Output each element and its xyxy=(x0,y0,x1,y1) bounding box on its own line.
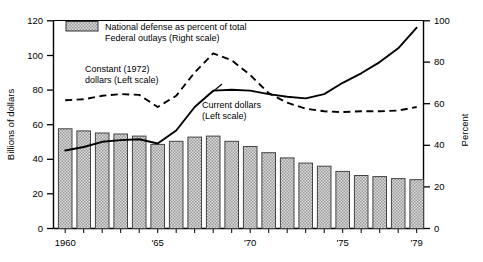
table-row xyxy=(206,136,220,228)
right-tick-80: 80 xyxy=(434,56,445,67)
x-tick-75: '75 xyxy=(337,237,349,248)
right-axis-title: Percent xyxy=(459,113,470,146)
chart-figure: 0 20 40 60 80 100 120 Billions of dollar… xyxy=(0,0,483,262)
table-row xyxy=(58,129,72,229)
x-tick-70: '70 xyxy=(244,237,256,248)
left-axis-title: Billions of dollars xyxy=(5,89,16,161)
table-row xyxy=(169,141,183,228)
left-tick-40: 40 xyxy=(32,153,43,164)
left-tick-100: 100 xyxy=(27,50,43,61)
hatched-bar-swatch xyxy=(66,22,98,32)
table-row xyxy=(391,179,405,229)
right-tick-100: 100 xyxy=(434,15,450,26)
annotation-constant-dollars: Constant (1972) dollars (Left scale) xyxy=(85,64,159,85)
table-row xyxy=(410,180,424,229)
left-tick-0: 0 xyxy=(38,223,43,234)
annotation-constant-line2: dollars (Left scale) xyxy=(85,75,159,85)
table-row xyxy=(243,147,257,229)
right-tick-20: 20 xyxy=(434,181,445,192)
table-row xyxy=(262,153,276,229)
right-tick-40: 40 xyxy=(434,139,445,150)
left-tick-60: 60 xyxy=(32,119,43,130)
legend-label-line2: Federal outlays (Right scale) xyxy=(105,33,220,43)
left-tick-20: 20 xyxy=(32,188,43,199)
table-row xyxy=(225,141,239,228)
table-row xyxy=(373,177,387,229)
legend-label-line1: National defense as percent of total xyxy=(105,22,247,32)
table-row xyxy=(188,137,202,228)
left-tick-120: 120 xyxy=(27,15,43,26)
right-tick-0: 0 xyxy=(434,223,439,234)
chart-svg: 0 20 40 60 80 100 120 Billions of dollar… xyxy=(0,0,483,262)
table-row xyxy=(151,144,165,228)
table-row xyxy=(317,166,331,228)
x-tick-1960: 1960 xyxy=(55,237,76,248)
x-tick-79: '79 xyxy=(411,237,423,248)
left-tick-80: 80 xyxy=(32,84,43,95)
annotation-constant-line1: Constant (1972) xyxy=(85,64,150,74)
annotation-current-line1: Current dollars xyxy=(202,100,262,110)
table-row xyxy=(114,134,128,229)
table-row xyxy=(354,176,368,229)
table-row xyxy=(336,171,350,228)
table-row xyxy=(132,136,146,228)
table-row xyxy=(280,158,294,229)
table-row xyxy=(95,133,109,229)
right-tick-60: 60 xyxy=(434,98,445,109)
annotation-current-line2: (Left scale) xyxy=(202,111,247,121)
table-row xyxy=(299,163,313,228)
x-tick-65: '65 xyxy=(152,237,164,248)
